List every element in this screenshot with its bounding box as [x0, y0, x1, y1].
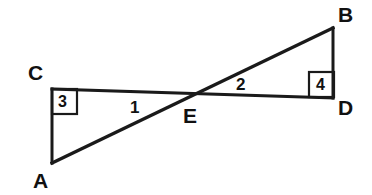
angle-label-1: 1 — [130, 99, 139, 116]
vertex-label-D: D — [338, 97, 353, 118]
vertex-label-B: B — [338, 4, 353, 25]
geometry-canvas — [0, 0, 372, 195]
right-angle-label-4: 4 — [316, 77, 325, 93]
right-angle-label-3: 3 — [58, 94, 67, 110]
vertex-label-C: C — [28, 62, 43, 83]
geometry-diagram: C A B D E 1 2 3 4 — [0, 0, 372, 195]
angle-label-2: 2 — [236, 76, 245, 93]
vertex-label-A: A — [33, 170, 48, 191]
vertex-label-E: E — [183, 105, 197, 126]
